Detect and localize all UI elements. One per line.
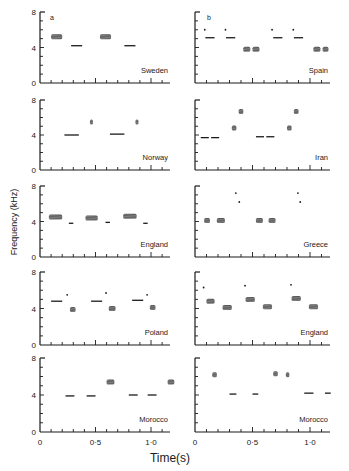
panel-sweden-a: 840aSweden [32, 8, 170, 88]
dot-element [271, 29, 273, 31]
y-tick-label: 8 [32, 8, 37, 17]
buzz-element [90, 119, 93, 124]
panel-letter: b [207, 14, 211, 21]
buzz-element [239, 109, 244, 114]
panel-england-b: England [195, 272, 330, 345]
country-label: Greece [303, 240, 328, 249]
y-tick-label: 4 [32, 218, 37, 227]
buzz-element [207, 299, 215, 304]
country-label: Norway [143, 153, 169, 162]
panel-iran-b: Iran [195, 100, 330, 170]
country-label: Poland [145, 328, 168, 337]
panel-greece-b: Greece [195, 186, 330, 257]
buzz-element [135, 119, 138, 124]
y-tick-label: 4 [32, 391, 37, 400]
y-tick-label: 8 [32, 268, 37, 277]
buzz-element [253, 47, 260, 52]
buzz-element [49, 215, 62, 220]
panels: 840aSwedenbSpain840NorwayIran840EnglandG… [32, 8, 331, 447]
x-tick-label: 0 [38, 438, 43, 447]
y-tick-label: 0 [32, 341, 37, 350]
dot-element [105, 292, 107, 294]
y-tick-label: 0 [32, 253, 37, 262]
dot-element [297, 192, 299, 194]
x-tick-label: 0·5 [90, 438, 102, 447]
buzz-element [51, 34, 62, 39]
panel-poland-a: 840Poland [32, 268, 170, 350]
y-tick-label: 0 [32, 166, 37, 175]
buzz-element [243, 47, 250, 52]
country-label: Morocco [139, 415, 168, 424]
buzz-element [292, 296, 301, 301]
country-label: Sweden [141, 66, 168, 75]
buzz-element [223, 305, 232, 310]
dot-element [299, 201, 301, 203]
buzz-element [256, 218, 263, 223]
panel-spain-b: bSpain [195, 12, 330, 83]
y-tick-label: 8 [32, 354, 37, 363]
y-tick-label: 0 [32, 79, 37, 88]
country-label: Morocco [299, 415, 328, 424]
dot-element [290, 284, 292, 286]
y-axis-label: Frequency (kHz) [9, 189, 19, 256]
dot-element [235, 192, 237, 194]
x-tick-label: 1·0 [145, 438, 157, 447]
dot-element [225, 29, 227, 31]
country-label: England [300, 328, 328, 337]
buzz-element [150, 305, 156, 310]
buzz-element [269, 218, 276, 223]
panel-morocco-a: 840Morocco00·51·0 [32, 354, 175, 447]
dot-element [292, 29, 294, 31]
buzz-element [212, 372, 217, 377]
x-tick-label: 0 [193, 438, 198, 447]
x-tick-label: 0·5 [247, 438, 259, 447]
panel-england-a: 840England [32, 182, 170, 262]
buzz-element [273, 371, 278, 376]
buzz-element [286, 372, 289, 377]
buzz-element [70, 307, 76, 312]
buzz-element [204, 218, 210, 223]
buzz-element [168, 380, 175, 385]
country-label: England [140, 240, 168, 249]
panel-letter: a [50, 14, 54, 21]
buzz-element [100, 34, 111, 39]
y-tick-label: 8 [32, 96, 37, 105]
dot-element [146, 294, 148, 296]
country-label: Iran [315, 153, 328, 162]
dot-element [238, 201, 240, 203]
buzz-element [232, 126, 237, 131]
buzz-element [323, 47, 329, 52]
y-tick-label: 0 [32, 428, 37, 437]
panel-morocco-b: Morocco00·51·0 [193, 358, 331, 447]
buzz-element [86, 215, 98, 220]
sonagram-figure: 840aSwedenbSpain840NorwayIran840EnglandG… [0, 0, 349, 471]
buzz-element [309, 304, 318, 309]
country-label: Spain [309, 66, 328, 75]
buzz-element [313, 47, 320, 52]
buzz-element [109, 306, 116, 311]
buzz-element [263, 304, 272, 309]
y-tick-label: 4 [32, 131, 37, 140]
panel-norway-a: 840Norway [32, 96, 170, 175]
buzz-element [107, 380, 115, 385]
x-axis-label: Time(s) [150, 451, 190, 465]
y-tick-label: 8 [32, 182, 37, 191]
buzz-element [246, 297, 255, 302]
buzz-element [217, 218, 225, 223]
buzz-element [294, 109, 299, 114]
dot-element [244, 285, 246, 287]
dot-element [204, 29, 206, 31]
dot-element [66, 294, 68, 296]
buzz-element [123, 214, 136, 219]
x-tick-label: 1·0 [304, 438, 316, 447]
buzz-element [287, 126, 292, 131]
dot-element [203, 287, 205, 289]
y-tick-label: 4 [32, 305, 37, 314]
y-tick-label: 4 [32, 44, 37, 53]
